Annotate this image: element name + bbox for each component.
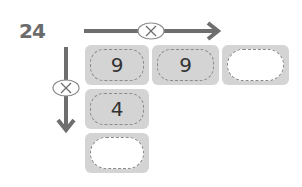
answer-blank[interactable] bbox=[227, 49, 284, 81]
cell-value: 9 bbox=[157, 49, 214, 81]
cell-r1c2: 9 bbox=[152, 45, 219, 85]
cell-r2c1: 4 bbox=[85, 89, 149, 129]
cell-r1c1: 9 bbox=[85, 45, 149, 85]
answer-blank[interactable] bbox=[90, 137, 144, 169]
horizontal-arrow-icon bbox=[84, 23, 218, 39]
cell-r1c3[interactable] bbox=[222, 45, 289, 85]
arrows bbox=[0, 0, 302, 187]
vertical-arrow-icon bbox=[53, 47, 79, 130]
cell-value: 9 bbox=[90, 49, 144, 81]
cell-r3c1[interactable] bbox=[85, 133, 149, 173]
cell-value: 4 bbox=[90, 93, 144, 125]
